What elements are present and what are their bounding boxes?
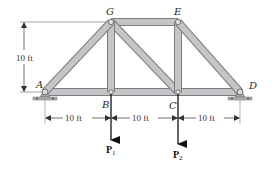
span-BC-label: 10 ft [132, 113, 149, 123]
pin-E [175, 19, 180, 24]
joint-label-C: C [169, 100, 177, 111]
joint-label-A: A [35, 79, 43, 90]
joint-label-B: B [101, 99, 109, 110]
member-ED [178, 22, 240, 92]
joint-label-D: D [248, 80, 257, 91]
truss-members [45, 22, 240, 92]
load-P2-label: P2 [173, 149, 183, 162]
load-P1-label: P1 [106, 144, 116, 157]
height-dimension: 10 ft [16, 22, 108, 92]
pin-G [108, 19, 113, 24]
joint-label-G: G [106, 6, 114, 17]
member-GC [111, 22, 178, 92]
height-dimension-label: 10 ft [16, 53, 33, 63]
joint-label-E: E [173, 6, 182, 17]
pin-C [176, 90, 180, 94]
truss-diagram: 10 ft [0, 0, 273, 169]
span-dimensions: 10 ft 10 ft 10 ft [45, 100, 240, 124]
member-AG [45, 22, 111, 92]
span-CD-label: 10 ft [198, 113, 215, 123]
span-AB-label: 10 ft [65, 113, 82, 123]
pin-B [109, 90, 113, 94]
